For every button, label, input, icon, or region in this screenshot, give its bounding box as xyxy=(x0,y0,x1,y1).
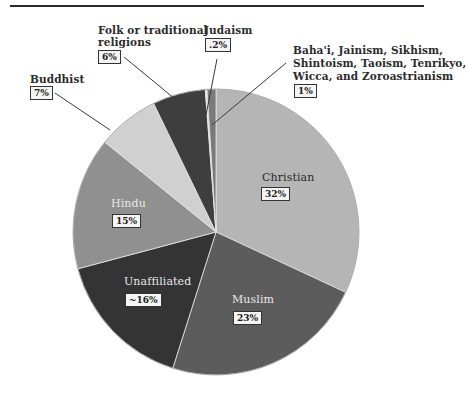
leader-line-folk xyxy=(124,57,186,108)
label-buddhist: Buddhist xyxy=(30,73,84,86)
pct-unaffiliated: ~16% xyxy=(125,293,162,307)
pct-other: 1% xyxy=(294,84,317,98)
label-folk-line2: religions xyxy=(98,36,151,49)
label-other-line1: Baha'i, Jainism, Sikhism, xyxy=(293,44,443,57)
pct-buddhist: 7% xyxy=(30,86,53,100)
label-judaism: Judaism xyxy=(204,24,252,37)
pct-muslim: 23% xyxy=(233,311,262,325)
label-unaffiliated: Unaffiliated xyxy=(124,275,191,288)
pie-slices xyxy=(73,89,359,375)
pct-hindu: 15% xyxy=(112,214,141,228)
label-christian: Christian xyxy=(262,171,314,184)
label-hindu: Hindu xyxy=(111,197,146,210)
label-muslim: Muslim xyxy=(232,293,274,306)
pct-christian: 32% xyxy=(261,187,290,201)
label-other-line3: Wicca, and Zoroastrianism xyxy=(293,70,453,83)
label-other-line2: Shintoism, Taoism, Tenrikyo, xyxy=(293,57,466,70)
leader-line-buddhist xyxy=(55,93,110,130)
pct-judaism: .2% xyxy=(205,38,231,52)
pct-folk: 6% xyxy=(98,50,121,64)
